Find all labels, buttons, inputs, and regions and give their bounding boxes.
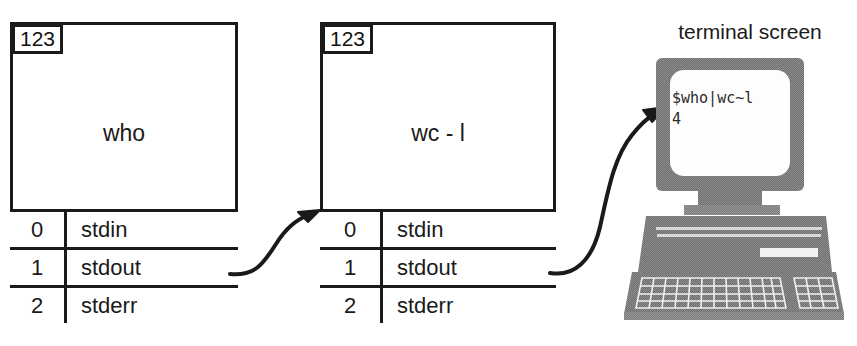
fd-row: 0 stdin (10, 209, 238, 247)
curved-arrow-icon (228, 200, 328, 300)
process-name-label: wc - l (323, 120, 553, 147)
fd-table: 0 stdin 1 stdout 2 stderr (10, 209, 238, 323)
terminal-output: $who|wc~l4 (672, 88, 792, 130)
fd-row: 2 stderr (10, 285, 238, 323)
fd-number: 1 (320, 250, 383, 285)
fd-number: 0 (320, 212, 383, 247)
fd-label: stdin (383, 212, 556, 247)
fd-label: stdout (383, 250, 556, 285)
fd-row: 2 stderr (320, 285, 556, 323)
terminal-screen-label: terminal screen (655, 20, 845, 44)
fd-number: 2 (320, 288, 383, 323)
fd-number: 1 (10, 250, 67, 285)
process-box-wc: 123 wc - l 0 stdin 1 stdout 2 stderr (320, 22, 556, 323)
process-name-label: who (13, 120, 235, 147)
fd-row: 1 stdout (10, 247, 238, 285)
fd-label: stdout (67, 250, 238, 285)
fd-number: 2 (10, 288, 67, 323)
terminal-result-line: 4 (672, 110, 681, 128)
process-pid-badge: 123 (322, 24, 373, 54)
pipeline-diagram: 123 who 0 stdin 1 stdout 2 stderr 123 wc… (0, 0, 857, 346)
fd-label: stderr (67, 288, 238, 323)
fd-label: stderr (383, 288, 556, 323)
fd-label: stdin (67, 212, 238, 247)
process-pid-badge: 123 (12, 24, 63, 54)
fd-table: 0 stdin 1 stdout 2 stderr (320, 209, 556, 323)
process-box-who: 123 who 0 stdin 1 stdout 2 stderr (10, 22, 238, 323)
fd-number: 0 (10, 212, 67, 247)
terminal-command-line: $who|wc~l (672, 89, 753, 107)
fd-row: 0 stdin (320, 209, 556, 247)
fd-row: 1 stdout (320, 247, 556, 285)
